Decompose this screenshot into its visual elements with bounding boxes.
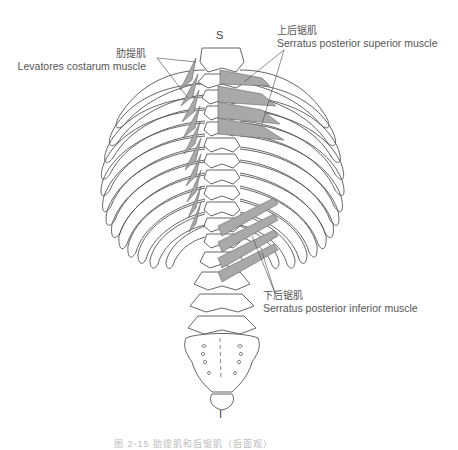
left-ribs	[101, 70, 205, 268]
label-levatores-zh: 肋提肌	[18, 48, 146, 60]
figure-caption: 图 2-15 肋提肌和后锯肌（后面观）	[114, 437, 273, 450]
label-levatores-en: Levatores costarum muscle	[18, 60, 146, 72]
label-levatores-costarum: 肋提肌 Levatores costarum muscle	[18, 48, 146, 72]
label-serratus-inferior-en: Serratus posterior inferior muscle	[263, 302, 418, 314]
label-serratus-superior-zh: 上后锯肌	[277, 25, 437, 37]
label-serratus-superior: 上后锯肌 Serratus posterior superior muscle	[277, 25, 437, 49]
superior-marker: S	[216, 29, 223, 41]
label-serratus-inferior: 下后锯肌 Serratus posterior inferior muscle	[263, 290, 418, 314]
label-serratus-inferior-zh: 下后锯肌	[263, 290, 418, 302]
inferior-marker: I	[219, 408, 222, 420]
serratus-posterior-superior-muscle	[218, 70, 284, 140]
label-serratus-superior-en: Serratus posterior superior muscle	[277, 37, 437, 49]
